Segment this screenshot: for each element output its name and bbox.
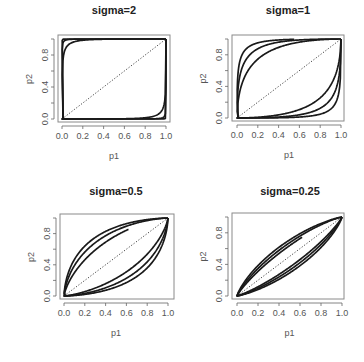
x-tick-label: 0.0: [231, 308, 244, 318]
y-tick-label: 0.0: [214, 112, 224, 125]
x-tick-label: 0.2: [252, 308, 265, 318]
y-tick-label: 0.4: [40, 81, 50, 94]
x-tick-label: 0.4: [273, 308, 286, 318]
y-tick-label: 0.8: [40, 49, 50, 62]
panel-1: sigma=20.00.20.40.60.81.0p10.00.40.8p2: [24, 4, 172, 161]
reference-diagonal: [62, 39, 166, 119]
panel-title: sigma=0.25: [260, 185, 320, 197]
x-axis: 0.00.20.40.60.81.0p1: [231, 125, 348, 160]
y-tick-label: 0.8: [214, 227, 224, 240]
x-tick-label: 0.4: [272, 130, 285, 140]
x-axis-label: p1: [111, 328, 121, 338]
x-tick-label: 0.4: [99, 308, 112, 318]
y-axis-label: p2: [26, 252, 36, 262]
plot-frame: [232, 213, 344, 299]
y-tick-label: 0.4: [214, 258, 224, 271]
plot-frame: [58, 35, 170, 122]
y-tick-label: 0.4: [214, 80, 224, 93]
y-tick-label: 0.0: [40, 113, 50, 126]
x-tick-label: 1.0: [336, 308, 349, 318]
y-axis-label: p2: [198, 73, 208, 83]
x-tick-label: 0.8: [141, 308, 154, 318]
plot-frame: [232, 35, 344, 121]
x-tick-label: 1.0: [162, 308, 175, 318]
reference-diagonal: [237, 39, 341, 118]
panel-title: sigma=2: [92, 4, 136, 16]
panel-title: sigma=1: [266, 4, 310, 16]
figure: sigma=20.00.20.40.60.81.0p10.00.40.8p2si…: [0, 0, 364, 362]
x-axis: 0.00.20.40.60.81.0p1: [56, 126, 173, 161]
y-axis: 0.00.40.8p2: [198, 39, 228, 124]
x-axis: 0.00.20.40.60.81.0p1: [231, 303, 349, 338]
x-tick-label: 0.0: [56, 131, 69, 141]
y-tick-label: 0.8: [214, 49, 224, 62]
curve-upper-1: [237, 237, 302, 295]
x-tick-label: 0.6: [293, 130, 306, 140]
y-axis: 0.00.40.8p2: [26, 218, 56, 302]
y-axis-label: p2: [198, 251, 208, 261]
panel-3: sigma=0.50.00.20.40.60.81.0p10.00.40.8p2: [26, 185, 174, 338]
y-tick-label: 0.8: [42, 227, 52, 240]
panel-2: sigma=10.00.20.40.60.81.0p10.00.40.8p2: [198, 4, 347, 160]
x-tick-label: 0.8: [139, 131, 152, 141]
y-tick-label: 0.0: [214, 290, 224, 303]
x-tick-label: 0.6: [120, 308, 133, 318]
y-axis: 0.00.40.8p2: [198, 217, 228, 302]
y-tick-label: 0.4: [42, 259, 52, 272]
x-axis-label: p1: [284, 150, 294, 160]
x-axis-label: p1: [109, 151, 119, 161]
y-axis-label: p2: [24, 74, 34, 84]
y-tick-label: 0.0: [42, 290, 52, 303]
x-tick-label: 0.4: [97, 131, 110, 141]
panel-4: sigma=0.250.00.20.40.60.81.0p10.00.40.8p…: [198, 185, 348, 338]
x-tick-label: 0.6: [294, 308, 307, 318]
x-tick-label: 0.0: [58, 308, 71, 318]
x-tick-label: 0.8: [315, 308, 328, 318]
panel-title: sigma=0.5: [89, 185, 143, 197]
x-tick-label: 0.0: [231, 130, 244, 140]
reference-diagonal: [237, 217, 342, 296]
x-axis: 0.00.20.40.60.81.0p1: [58, 303, 175, 338]
x-tick-label: 0.8: [314, 130, 327, 140]
x-tick-label: 1.0: [160, 131, 173, 141]
x-tick-label: 0.2: [252, 130, 265, 140]
x-tick-label: 0.2: [79, 308, 92, 318]
x-axis-label: p1: [284, 328, 294, 338]
x-tick-label: 1.0: [335, 130, 348, 140]
x-tick-label: 0.2: [77, 131, 90, 141]
curve-upper-3: [237, 39, 294, 117]
y-axis: 0.00.40.8p2: [24, 39, 54, 125]
x-tick-label: 0.6: [118, 131, 131, 141]
